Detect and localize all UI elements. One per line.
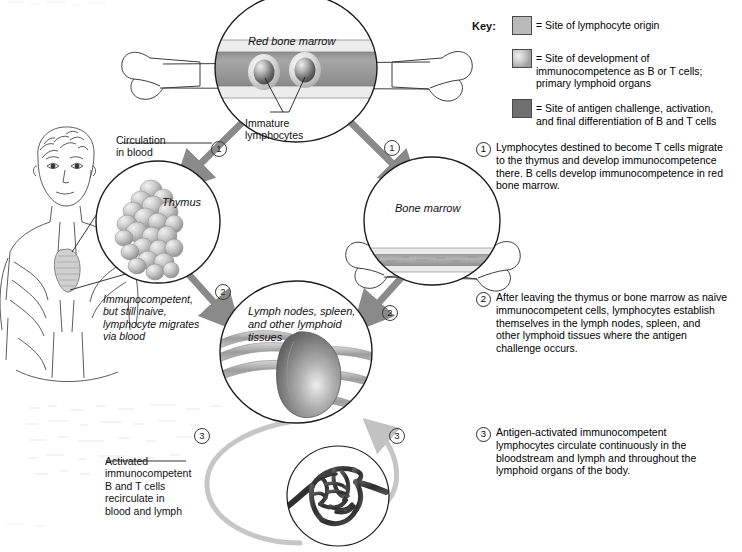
swatch-immunocompetence-development (512, 49, 532, 68)
step-3-text: Antigen-activated immunocompetent lympho… (496, 426, 696, 477)
illustration-lymph-node (214, 280, 382, 426)
illustration-capillary-bed (286, 446, 390, 546)
label-bone-marrow: Bone marrow (395, 202, 460, 215)
step-2-number: 2 (476, 292, 491, 307)
key-text-antigen: = Site of antigen challenge, activation,… (536, 99, 716, 127)
step-2: 2 After leaving the thymus or bone marro… (476, 291, 740, 355)
callout-immature-lymphocytes: Immature lymphocytes (245, 117, 303, 142)
key-text-development: = Site of development of immunocompetenc… (536, 49, 703, 90)
illustration-thymus (94, 160, 224, 285)
step-1: 1 Lymphocytes destined to become T cells… (476, 141, 738, 192)
flow-number-1-left: 1 (211, 141, 227, 157)
key-item-origin: = Site of lymphocyte origin (512, 16, 737, 35)
label-red-bone-marrow: Red bone marrow (248, 35, 335, 48)
flow-number-3-left: 3 (194, 428, 210, 444)
key-item-antigen: = Site of antigen challenge, activation,… (512, 99, 740, 127)
diagram-canvas: Red bone marrow Thymus Bone marrow Lymph… (0, 0, 742, 552)
callout-circulation-in-blood: Circulation in blood (116, 134, 166, 159)
key-title: Key: (472, 20, 496, 32)
step-3-number: 3 (476, 427, 491, 442)
flow-number-1-right: 1 (384, 140, 400, 156)
callout-activated-cells: Activated immunocompetent B and T cells … (105, 455, 191, 517)
label-lymph-nodes: Lymph nodes, spleen, and other lymphoid … (248, 305, 355, 344)
key-item-development: = Site of development of immunocompetenc… (512, 49, 737, 90)
step-3: 3 Antigen-activated immunocompetent lymp… (476, 426, 738, 477)
step-1-number: 1 (476, 142, 491, 157)
flow-number-3-right: 3 (389, 428, 405, 444)
swatch-antigen-challenge (512, 99, 532, 118)
flow-number-2-right: 2 (382, 305, 398, 321)
step-2-text: After leaving the thymus or bone marrow … (496, 291, 727, 355)
step-1-text: Lymphocytes destined to become T cells m… (496, 141, 723, 192)
label-thymus: Thymus (162, 196, 201, 209)
callout-immunocompetent-naive: Immunocompetent, but still naive, lympho… (103, 293, 199, 343)
key-text-origin: = Site of lymphocyte origin (536, 16, 659, 32)
flow-number-2-left: 2 (215, 284, 231, 300)
swatch-lymphocyte-origin (512, 16, 532, 35)
